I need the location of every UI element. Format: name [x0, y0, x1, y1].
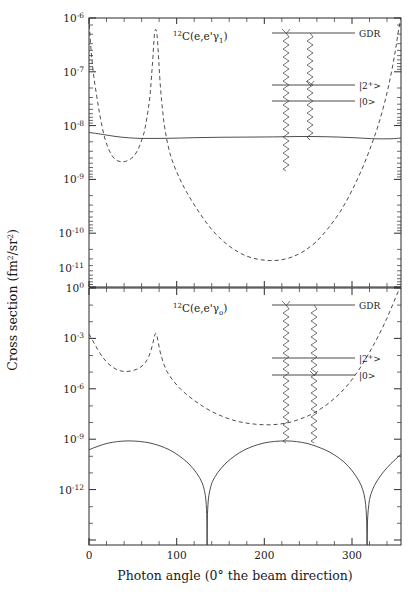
panel-top-ytick-5-base: 10: [59, 262, 72, 274]
panel-top-x-ticks: [89, 18, 352, 287]
panel-bottom-x-tick-labels: 0 100 200 300: [86, 549, 362, 561]
panel-bottom-title-post: ): [223, 302, 227, 314]
panel-top-ytick-4-base: 10: [59, 227, 72, 239]
panel-bottom-ytick-0-exp: 0: [79, 281, 84, 290]
inset-label-two-plus-post-bottom: >: [373, 354, 381, 364]
panel-bottom-level-diagram-inset: GDR |2+> |0>: [272, 301, 381, 443]
panel-bottom-frame: [89, 288, 401, 545]
inset-label-ground: |0>: [359, 97, 375, 108]
panel-top-curve-solid: [89, 133, 401, 139]
panel-bottom-ytick-2-exp: -6: [77, 382, 85, 391]
panel-top-y-minor-ticks: [89, 25, 401, 285]
y-axis-label-mid: /sr: [5, 239, 20, 256]
svg-text:10-6: 10-6: [63, 11, 84, 24]
inset-label-two-plus: |2+>: [359, 80, 381, 92]
panel-bottom-title-main: C(e,e'γ: [182, 302, 219, 314]
panel-bottom-y-major-ticks: [89, 288, 401, 540]
svg-text:10-9: 10-9: [63, 432, 84, 445]
y-axis-label-main: Cross section (fm: [5, 260, 20, 371]
panel-bottom-ytick-0-base: 10: [66, 282, 79, 294]
panel-top-ytick-5-exp: -11: [72, 261, 84, 270]
panel-bottom-curve-solid: [89, 441, 401, 545]
svg-text:10-6: 10-6: [63, 382, 84, 395]
panel-bottom-ytick-3-base: 10: [63, 433, 76, 445]
panel-bottom-y-tick-labels: 100 10-3 10-6 10-9 10-12: [59, 281, 85, 496]
svg-text:10-9: 10-9: [63, 172, 84, 185]
y-axis-label-end: ): [5, 229, 20, 234]
svg-text:100: 100: [66, 281, 84, 294]
panel-bottom-x-ticks: [89, 288, 352, 545]
panel-top-ytick-3-base: 10: [63, 173, 76, 185]
svg-text:10-7: 10-7: [63, 65, 84, 78]
svg-text:10-8: 10-8: [63, 119, 84, 132]
photon-transition-wavy-right-bottom-icon: [311, 305, 317, 443]
panel-top-ytick-0-exp: -6: [77, 11, 85, 20]
svg-text:10-11: 10-11: [59, 261, 84, 274]
panel-bottom-y-minor-ticks: [89, 305, 401, 523]
panel-bottom-title: 12C(e,e'γo): [173, 302, 227, 317]
panel-bottom: 100 10-3 10-6 10-9 10-12 0 100 200 300 1…: [59, 281, 401, 561]
panel-top-ytick-0-base: 10: [63, 12, 76, 24]
panel-top-frame: [89, 18, 401, 287]
panel-top-y-major-ticks: [89, 18, 401, 287]
xtick-label-200: 200: [254, 549, 274, 561]
panel-top-ytick-1-base: 10: [63, 66, 76, 78]
xtick-label-300: 300: [342, 549, 362, 561]
svg-text:10-3: 10-3: [63, 331, 84, 344]
photon-transition-wavy-right-icon: [307, 33, 313, 140]
panel-top: 10-6 10-7 10-8 10-9 10-10 10-11 12C(e,e'…: [59, 11, 401, 287]
panel-bottom-ytick-4-exp: -12: [72, 483, 84, 492]
svg-text:10-12: 10-12: [59, 483, 85, 496]
panel-bottom-ytick-1-exp: -3: [77, 331, 85, 340]
panel-top-x-minor-ticks: [107, 18, 388, 287]
panel-top-title-main: C(e,e'γ: [182, 30, 219, 42]
panel-top-title-post: ): [223, 30, 227, 42]
panel-top-ytick-2-exp: -8: [77, 119, 85, 128]
photon-transition-wavy-left-icon: [283, 33, 289, 171]
x-axis-label: Photon angle (0° the beam direction): [117, 568, 352, 583]
inset-label-gdr-bottom: GDR: [359, 301, 380, 311]
panel-top-y-tick-labels: 10-6 10-7 10-8 10-9 10-10 10-11: [59, 11, 85, 274]
panel-bottom-ytick-3-exp: -9: [77, 432, 85, 441]
inset-label-two-plus-pre: |2: [359, 81, 368, 92]
panel-top-curve-dashed: [89, 18, 401, 261]
xtick-label-100: 100: [167, 549, 187, 561]
panel-top-title: 12C(e,e'γ1): [173, 30, 228, 45]
svg-text:10-10: 10-10: [59, 226, 85, 239]
figure-root: Cross section (fm2/sr2): [0, 0, 418, 598]
panel-bottom-ytick-2-base: 10: [63, 383, 76, 395]
xtick-label-0: 0: [86, 549, 93, 561]
panel-top-ytick-2-base: 10: [63, 120, 76, 132]
inset-label-gdr: GDR: [359, 29, 380, 39]
svg-text:Cross section (fm2/sr2): Cross section (fm2/sr2): [5, 229, 20, 371]
panel-bottom-x-minor-ticks: [107, 288, 388, 545]
figure-svg: Cross section (fm2/sr2): [0, 0, 418, 598]
inset-label-two-plus-bottom: |2+>: [359, 353, 381, 365]
panel-top-ytick-1-exp: -7: [77, 65, 85, 74]
panel-top-level-diagram-inset: GDR |2+> |0>: [272, 29, 381, 171]
panel-bottom-title-mass: 12: [173, 302, 182, 310]
panel-bottom-ytick-4-base: 10: [59, 484, 72, 496]
panel-top-ytick-3-exp: -9: [77, 172, 85, 181]
panel-top-ytick-4-exp: -10: [72, 226, 84, 235]
y-axis-label: Cross section (fm2/sr2): [5, 229, 20, 371]
inset-label-ground-bottom: |0>: [359, 371, 375, 382]
panel-bottom-ytick-1-base: 10: [63, 332, 76, 344]
panel-bottom-curve-dashed: [89, 288, 401, 425]
inset-label-two-plus-post: >: [373, 81, 381, 91]
panel-top-title-mass: 12: [173, 30, 182, 38]
